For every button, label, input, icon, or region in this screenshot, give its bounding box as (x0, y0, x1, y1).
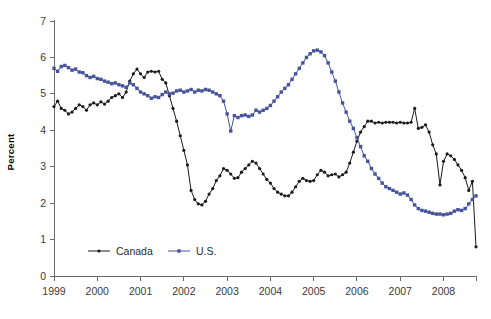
data-point-marker (435, 152, 438, 155)
data-point-marker (247, 163, 250, 166)
data-point-marker (312, 179, 315, 182)
y-tick-label: 6 (40, 51, 46, 63)
data-point-marker (164, 90, 167, 93)
data-point-marker (388, 121, 391, 124)
data-point-marker (114, 94, 117, 97)
series-canada (52, 67, 477, 248)
data-point-marker (316, 48, 319, 51)
data-point-marker (88, 103, 91, 106)
data-point-marker (399, 121, 402, 124)
data-point-marker (391, 121, 394, 124)
data-point-marker (337, 90, 340, 93)
chart-container: 01234567 1999200020012002200320042005200… (0, 0, 491, 319)
data-point-marker (265, 107, 268, 110)
y-axis-title: Percent (5, 133, 16, 170)
data-point-marker (74, 107, 77, 110)
data-point-marker (81, 105, 84, 108)
data-point-marker (229, 129, 232, 132)
data-point-marker (312, 49, 315, 52)
data-point-marker (226, 169, 229, 172)
data-point-marker (453, 158, 456, 161)
data-point-marker (463, 207, 466, 210)
data-point-marker (327, 174, 330, 177)
x-axis: 1999200020012002200320042005200620072008 (42, 276, 476, 297)
data-point-marker (406, 121, 409, 124)
data-point-marker (78, 103, 81, 106)
data-point-marker (344, 110, 347, 113)
data-point-marker (218, 94, 221, 97)
data-point-marker (294, 185, 297, 188)
data-point-marker (182, 90, 185, 93)
x-tick-label: 1999 (42, 285, 66, 297)
data-point-marker (456, 208, 459, 211)
data-point-marker (243, 113, 246, 116)
data-point-marker (52, 67, 55, 70)
y-tick-label: 0 (40, 270, 46, 282)
data-point-marker (229, 172, 232, 175)
data-point-marker (283, 194, 286, 197)
data-point-marker (215, 92, 218, 95)
data-point-marker (67, 66, 70, 69)
data-point-marker (161, 93, 164, 96)
data-point-marker (265, 178, 268, 181)
data-point-marker (186, 163, 189, 166)
y-tick-label: 2 (40, 197, 46, 209)
data-point-marker (316, 173, 319, 176)
data-point-marker (92, 75, 95, 78)
data-point-marker (456, 163, 459, 166)
data-point-marker (381, 181, 384, 184)
data-point-marker (132, 72, 135, 75)
x-tick-label: 2002 (172, 285, 196, 297)
x-tick-label: 2004 (259, 285, 283, 297)
y-tick-label: 4 (40, 124, 46, 136)
data-point-marker (370, 120, 373, 123)
data-point-marker (96, 103, 99, 106)
data-point-marker (139, 72, 142, 75)
data-point-marker (99, 100, 102, 103)
data-point-marker (442, 160, 445, 163)
data-point-marker (215, 179, 218, 182)
data-point-marker (193, 198, 196, 201)
data-point-marker (67, 112, 70, 115)
data-point-marker (366, 120, 369, 123)
data-point-marker (467, 189, 470, 192)
data-point-marker (276, 95, 279, 98)
data-point-marker (341, 173, 344, 176)
data-point-marker (74, 67, 77, 70)
data-point-marker (207, 89, 210, 92)
data-point-marker (402, 191, 405, 194)
data-point-marker (424, 209, 427, 212)
data-point-marker (308, 52, 311, 55)
data-point-marker (438, 183, 441, 186)
series-line (54, 50, 476, 215)
x-tick-label: 2000 (86, 285, 110, 297)
x-tick-label: 2007 (389, 285, 413, 297)
data-point-marker (427, 211, 430, 214)
data-point-marker (110, 96, 113, 99)
data-point-marker (240, 114, 243, 117)
data-point-marker (345, 171, 348, 174)
data-point-marker (391, 189, 394, 192)
data-point-marker (161, 78, 164, 81)
data-point-marker (406, 193, 409, 196)
data-point-marker (70, 68, 73, 71)
data-point-marker (431, 143, 434, 146)
data-point-marker (269, 104, 272, 107)
data-point-marker (251, 160, 254, 163)
data-point-marker (85, 109, 88, 112)
data-point-marker (175, 120, 178, 123)
legend-label: U.S. (196, 245, 216, 257)
chart-legend: CanadaU.S. (88, 245, 216, 257)
data-point-marker (52, 105, 55, 108)
y-tick-label: 7 (40, 15, 46, 27)
y-tick-label: 3 (40, 160, 46, 172)
data-point-marker (218, 174, 221, 177)
data-point-marker (287, 83, 290, 86)
data-point-marker (363, 125, 366, 128)
data-point-marker (106, 81, 109, 84)
data-point-marker (236, 176, 239, 179)
data-point-marker (370, 167, 373, 170)
data-point-marker (171, 91, 174, 94)
legend-swatch-marker (177, 249, 180, 252)
data-point-marker (366, 160, 369, 163)
